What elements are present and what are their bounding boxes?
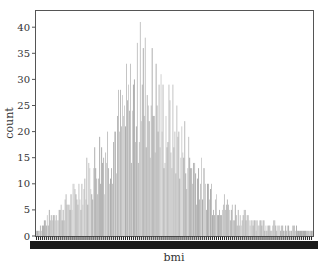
bar <box>260 220 261 236</box>
bar <box>213 210 214 236</box>
bar <box>289 231 290 236</box>
bar <box>181 126 182 236</box>
bar <box>241 226 242 236</box>
bar <box>258 226 259 236</box>
bar <box>173 85 174 236</box>
bar <box>59 210 60 236</box>
bar <box>242 220 243 236</box>
bar <box>133 85 134 236</box>
x-tick-label-band <box>30 241 318 249</box>
bar <box>217 215 218 236</box>
bar <box>290 231 291 236</box>
bar <box>150 158 151 236</box>
bar <box>89 168 90 236</box>
bar <box>224 194 225 236</box>
y-tick-label: 0 <box>24 231 30 242</box>
bar <box>67 205 68 236</box>
bar <box>297 231 298 236</box>
bar <box>266 226 267 236</box>
bar <box>308 231 309 236</box>
bar <box>96 179 97 236</box>
bar <box>209 199 210 236</box>
bar <box>77 199 78 236</box>
bar <box>265 231 266 236</box>
y-tick-label: 35 <box>17 48 30 59</box>
bar <box>93 168 94 236</box>
bar <box>189 158 190 236</box>
bar <box>267 231 268 236</box>
bar <box>141 121 142 236</box>
bar <box>244 210 245 236</box>
bar <box>198 168 199 236</box>
bar <box>303 231 304 236</box>
bar <box>75 189 76 236</box>
bar <box>41 231 42 236</box>
bar <box>156 64 157 236</box>
bar <box>140 22 141 236</box>
bar <box>143 48 144 236</box>
bar <box>237 226 238 236</box>
bar <box>301 231 302 236</box>
bar <box>116 173 117 236</box>
bar <box>115 132 116 236</box>
bar <box>211 184 212 236</box>
bar <box>169 85 170 236</box>
bar <box>275 226 276 236</box>
bar <box>192 184 193 236</box>
bar <box>78 205 79 236</box>
bar <box>164 168 165 236</box>
bar <box>233 220 234 236</box>
bar <box>129 111 130 236</box>
bar <box>277 226 278 236</box>
x-axis-ticks <box>36 237 311 241</box>
bar <box>197 179 198 236</box>
bar <box>70 210 71 236</box>
bar <box>254 220 255 236</box>
bar <box>127 100 128 236</box>
bar <box>252 220 253 236</box>
bar <box>204 168 205 236</box>
bar <box>219 210 220 236</box>
bar <box>64 220 65 236</box>
y-tick-label: 30 <box>17 74 30 85</box>
bar <box>155 152 156 236</box>
bar <box>72 210 73 236</box>
bar <box>71 194 72 236</box>
bar <box>223 205 224 236</box>
bar <box>46 226 47 236</box>
bar <box>50 220 51 236</box>
x-axis-label: bmi <box>164 251 185 264</box>
bar <box>281 226 282 236</box>
bar <box>101 147 102 236</box>
bar <box>81 210 82 236</box>
bar <box>296 226 297 236</box>
bar <box>167 147 168 236</box>
bar <box>56 215 57 236</box>
bar <box>208 184 209 236</box>
bar <box>76 194 77 236</box>
bar <box>55 220 56 236</box>
bar <box>284 231 285 236</box>
bar <box>84 179 85 236</box>
bar <box>98 179 99 236</box>
bar <box>53 215 54 236</box>
bar <box>107 132 108 236</box>
bar <box>186 189 187 236</box>
bar <box>270 231 271 236</box>
bar <box>97 194 98 236</box>
bar <box>226 205 227 236</box>
bar <box>175 173 176 236</box>
bar <box>74 184 75 236</box>
bar <box>232 205 233 236</box>
bar <box>128 85 129 236</box>
bar <box>146 147 147 236</box>
bar <box>312 231 313 236</box>
bar <box>69 205 70 236</box>
bar <box>212 215 213 236</box>
bar <box>130 64 131 236</box>
bar <box>298 231 299 236</box>
bar <box>194 163 195 236</box>
bar <box>113 142 114 236</box>
bar <box>122 95 123 236</box>
bar <box>255 220 256 236</box>
